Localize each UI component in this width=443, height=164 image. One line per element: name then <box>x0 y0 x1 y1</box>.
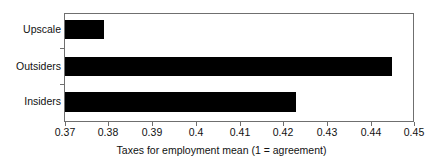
bar-upscale <box>65 20 104 39</box>
y-axis-label-insiders: Insiders <box>0 95 61 107</box>
y-axis-tick-2 <box>60 84 64 85</box>
x-axis-tick-label-3: 0.4 <box>189 126 204 138</box>
x-axis-tick-label-1: 0.38 <box>98 126 118 138</box>
x-axis-tick-label-2: 0.39 <box>142 126 162 138</box>
y-axis-tick-1 <box>60 48 64 49</box>
y-axis-label-outsiders: Outsiders <box>0 60 61 72</box>
bar-insiders <box>65 92 296 112</box>
x-axis-tick-label-4: 0.41 <box>230 126 250 138</box>
chart-screenshot: Upscale Outsiders Insiders 0.37 0.38 0.3… <box>0 0 443 164</box>
x-axis-tick-label-8: 0.45 <box>404 126 424 138</box>
bars-layer <box>65 14 414 121</box>
y-axis-label-upscale: Upscale <box>0 23 61 35</box>
x-axis-tick-label-5: 0.42 <box>273 126 293 138</box>
bar-outsiders <box>65 57 392 76</box>
x-axis-tick-label-0: 0.37 <box>55 126 75 138</box>
x-axis-tick-label-7: 0.44 <box>361 126 381 138</box>
x-axis-tick-label-6: 0.43 <box>317 126 337 138</box>
x-axis-title: Taxes for employment mean (1 = agreement… <box>0 144 443 156</box>
